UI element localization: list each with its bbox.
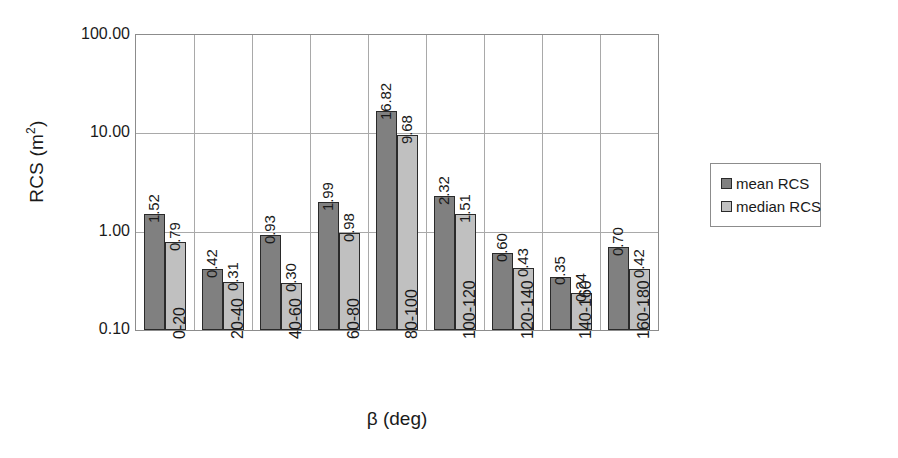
bar-value-label: 9.68 [399,115,414,144]
x-axis-tick-label: 80-100 [404,289,420,339]
x-axis-tick-label: 0-20 [172,307,188,339]
bar-mean-rcs-120-140[interactable] [492,253,513,330]
legend-item[interactable]: median RCS [721,195,820,218]
vertical-gridline [368,35,369,330]
x-axis-title: β (deg) [135,408,659,430]
bar-value-label: 1.51 [457,194,472,223]
chart-legend: mean RCSmedian RCS [710,163,821,227]
vertical-gridline [542,35,543,330]
vertical-gridline [252,35,253,330]
legend-item-label: median RCS [736,199,821,214]
y-axis-tick-label: 10.00 [40,124,130,140]
legend-item[interactable]: mean RCS [721,172,820,195]
vertical-gridline [426,35,427,330]
bar-value-label: 0.79 [167,222,182,251]
y-axis-ticks: 100.0010.001.000.10 [38,0,130,458]
y-axis-tick-label: 100.00 [40,26,130,42]
bar-value-label: 0.35 [552,257,567,286]
x-axis-tick-label: 120-140 [520,280,536,339]
bar-mean-rcs-100-120[interactable] [434,196,455,330]
x-axis-tick-label: 140-160 [578,280,594,339]
bar-value-label: 2.32 [436,176,451,205]
x-axis-tick-label: 100-120 [462,280,478,339]
vertical-gridline [600,35,601,330]
bar-value-label: 0.60 [494,234,509,263]
bar-value-label: 0.43 [515,248,530,277]
x-axis-tick-label: 160-180 [636,280,652,339]
x-axis-tick-label: 60-80 [346,298,362,339]
bar-value-label: 0.70 [610,227,625,256]
bar-value-label: 0.42 [204,249,219,278]
bar-value-label: 1.52 [146,194,161,223]
bar-mean-rcs-160-180[interactable] [608,247,629,330]
bar-value-label: 0.93 [262,215,277,244]
y-axis-title-exponent: 2 [24,127,38,134]
x-axis-tick-label: 20-40 [230,298,246,339]
bar-value-label: 16.82 [378,83,393,120]
y-axis-tick-label: 1.00 [40,223,130,239]
bar-mean-rcs-60-80[interactable] [318,202,339,330]
bar-value-label: 0.98 [341,213,356,242]
x-axis-tick-label: 40-60 [288,298,304,339]
bar-value-label: 0.42 [631,249,646,278]
bar-value-label: 0.31 [225,262,240,291]
legend-swatch-icon [721,201,732,212]
vertical-gridline [484,35,485,330]
legend-item-label: mean RCS [736,176,809,191]
bar-value-label: 0.30 [283,263,298,292]
bar-mean-rcs-0-20[interactable] [144,214,165,330]
y-axis-tick-label: 0.10 [40,321,130,337]
rcs-bar-chart: RCS (m2) 100.0010.001.000.10 1.520.790.4… [0,0,898,458]
vertical-gridline [310,35,311,330]
bar-mean-rcs-80-100[interactable] [376,111,397,330]
vertical-gridline [194,35,195,330]
legend-swatch-icon [721,178,732,189]
bar-mean-rcs-40-60[interactable] [260,235,281,330]
bar-value-label: 1.99 [320,182,335,211]
